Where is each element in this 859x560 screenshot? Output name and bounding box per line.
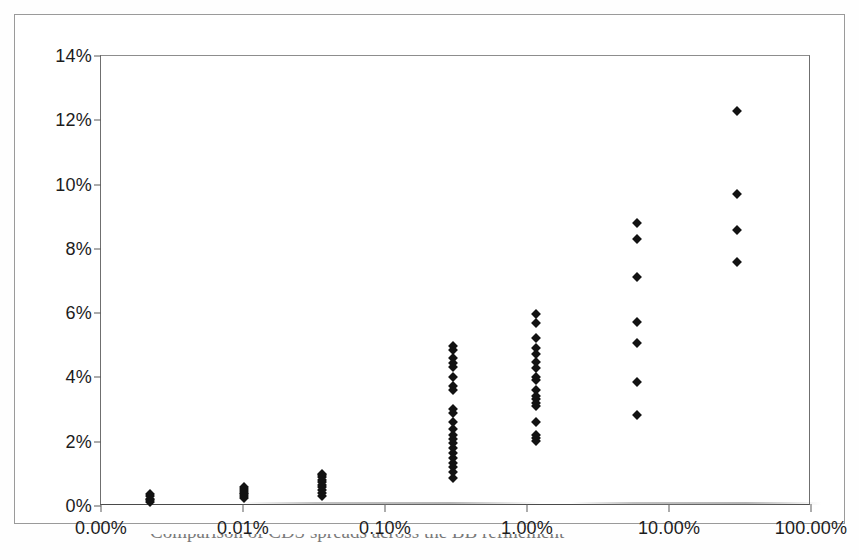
y-axis-tick-mark [94, 441, 101, 442]
data-point [633, 272, 643, 282]
y-axis-tick-label: 6% [66, 303, 92, 324]
y-axis-tick-label: 10% [55, 174, 92, 195]
data-point [633, 317, 643, 327]
data-point [732, 106, 742, 116]
data-point [448, 417, 458, 427]
x-axis-tick-mark [385, 504, 386, 512]
figure-outer-border: 0%2%4%6%8%10%12%14% 0.00%0.01%0.10%1.00%… [14, 14, 845, 524]
scan-smudge [571, 502, 821, 505]
y-axis-tick-mark [94, 120, 101, 121]
data-point [633, 377, 643, 387]
data-point [732, 225, 742, 235]
y-axis-tick-label: 8% [66, 238, 92, 259]
x-axis-tick-mark [527, 504, 528, 512]
plot-area: 0%2%4%6%8%10%12%14% 0.00%0.01%0.10%1.00%… [100, 55, 810, 505]
data-point [531, 318, 541, 328]
x-axis-tick-mark [243, 504, 244, 512]
y-axis-tick-label: 14% [55, 46, 92, 67]
x-axis-tick-mark [811, 504, 812, 512]
y-axis-tick-mark [94, 248, 101, 249]
scan-smudge [241, 502, 541, 505]
data-point [633, 410, 643, 420]
figure-caption-strip: Comparison of CDS spreads across the BB … [0, 534, 859, 560]
data-point [531, 417, 541, 427]
data-point [633, 338, 643, 348]
y-axis-tick-label: 2% [66, 431, 92, 452]
data-point [732, 189, 742, 199]
y-axis-tick-label: 4% [66, 367, 92, 388]
y-axis-tick-mark [94, 56, 101, 57]
y-axis-tick-mark [94, 313, 101, 314]
figure-caption: Comparison of CDS spreads across the BB … [150, 534, 564, 543]
y-axis-tick-mark [94, 377, 101, 378]
y-axis-tick-mark [94, 184, 101, 185]
y-axis-tick-label: 0% [66, 496, 92, 517]
x-axis-tick-mark [101, 504, 102, 512]
figure-root: 0%2%4%6%8%10%12%14% 0.00%0.01%0.10%1.00%… [0, 0, 859, 560]
data-point [633, 234, 643, 244]
data-point [531, 333, 541, 343]
data-point [732, 257, 742, 267]
y-axis-tick-label: 12% [55, 110, 92, 131]
data-point [633, 218, 643, 228]
x-axis-tick-mark [669, 504, 670, 512]
data-point [448, 372, 458, 382]
data-point [531, 309, 541, 319]
